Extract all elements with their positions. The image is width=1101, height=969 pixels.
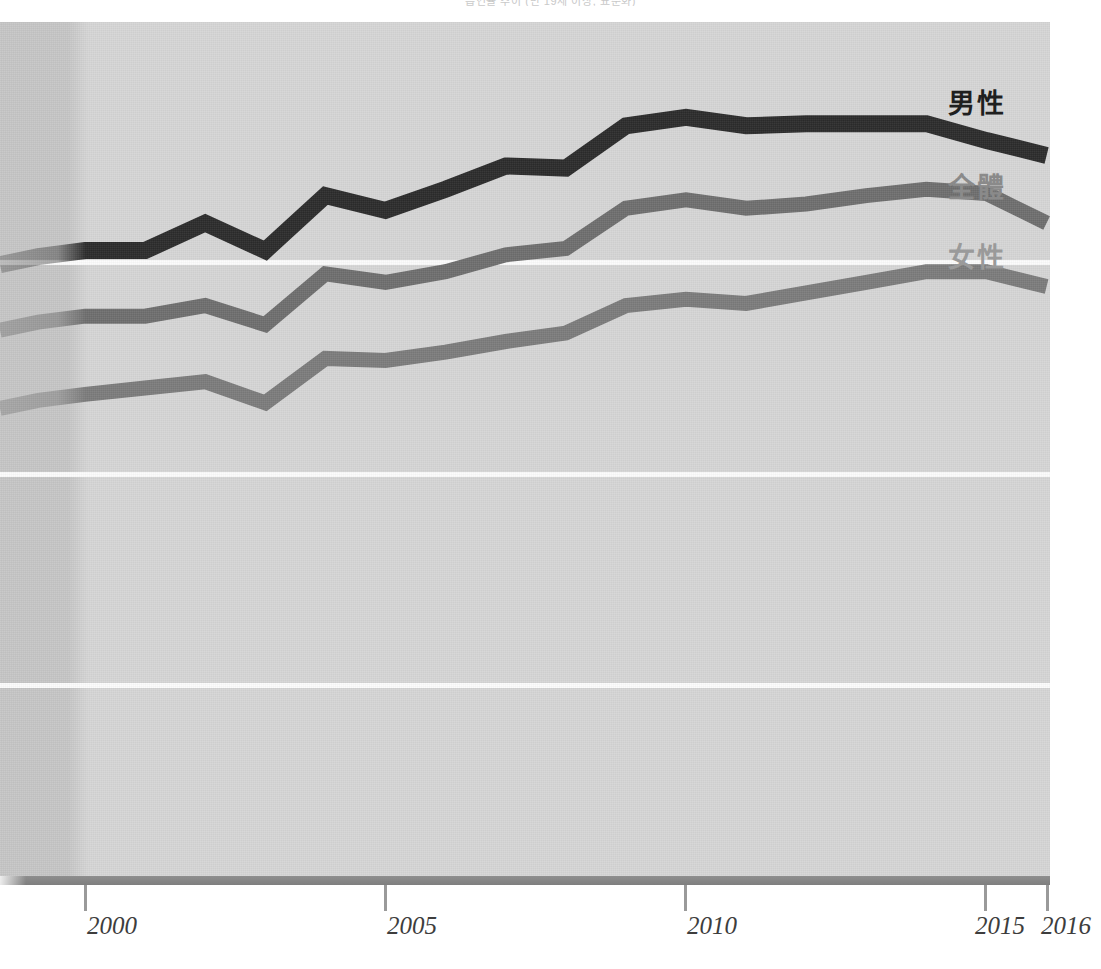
chart-title: 흡연율 추이 (만 19세 이상, 표준화)	[0, 0, 1101, 6]
series-label-male: 男性	[948, 82, 1006, 121]
x-label-2000: 2000	[87, 912, 137, 940]
x-tick-2000	[84, 885, 87, 911]
x-tick-2016	[1046, 885, 1049, 911]
series-label-female: 女性	[948, 236, 1006, 275]
series-lines	[0, 22, 1050, 878]
x-axis-line	[0, 876, 1050, 885]
plot-area	[0, 22, 1050, 878]
series-label-total: 全體	[948, 166, 1006, 205]
x-tick-2015	[984, 885, 987, 911]
line-female	[0, 272, 1047, 409]
x-label-2016: 2016	[1041, 912, 1091, 940]
x-tick-2005	[384, 885, 387, 911]
chart-figure: 흡연율 추이 (만 19세 이상, 표준화)	[0, 0, 1101, 969]
x-label-2010: 2010	[687, 912, 737, 940]
x-tick-2010	[684, 885, 687, 911]
x-axis-line-fade	[0, 876, 26, 885]
line-total	[0, 189, 1047, 330]
x-label-2015: 2015	[975, 912, 1025, 940]
x-label-2005: 2005	[387, 912, 437, 940]
